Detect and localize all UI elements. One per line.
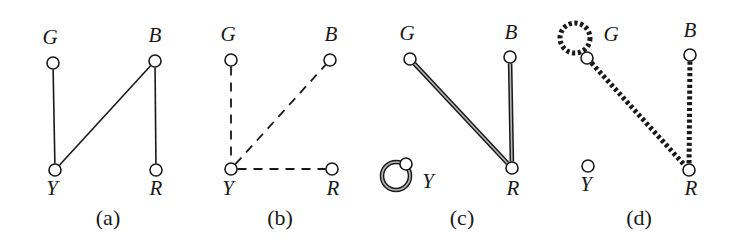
node-b-R[interactable] <box>326 163 338 175</box>
node-label-b-R: R <box>327 178 340 199</box>
node-label-a-Y: Y <box>46 178 58 199</box>
node-label-b-Y: Y <box>222 178 234 199</box>
edge-a-Y-B <box>59 66 150 165</box>
node-c-G[interactable] <box>404 53 416 65</box>
edge-a-B-R <box>155 67 156 163</box>
node-label-c-B: B <box>505 22 518 43</box>
graph-figure: GBYR(a)GBYR(b)GBYR(c)GBYR(d) <box>0 0 737 250</box>
node-label-c-R: R <box>507 178 520 199</box>
node-d-B[interactable] <box>684 49 696 61</box>
node-label-b-G: G <box>220 24 235 45</box>
node-d-G[interactable] <box>581 52 593 64</box>
node-label-b-B: B <box>325 24 338 45</box>
node-c-Y[interactable] <box>400 158 412 170</box>
node-label-d-R: R <box>685 178 698 199</box>
edge-b-Y-B <box>235 65 325 164</box>
node-c-R[interactable] <box>506 162 518 174</box>
node-label-c-G: G <box>399 23 414 44</box>
panel-caption-b: (b) <box>267 207 293 229</box>
self-loops-layer <box>382 23 590 190</box>
node-b-G[interactable] <box>225 54 237 66</box>
node-label-a-G: G <box>42 27 57 48</box>
node-a-B[interactable] <box>149 55 161 67</box>
panel-caption-c: (c) <box>450 207 474 229</box>
node-label-d-Y: Y <box>580 174 592 195</box>
node-b-B[interactable] <box>324 54 336 66</box>
node-a-R[interactable] <box>150 164 162 176</box>
panel-caption-d: (d) <box>626 207 652 229</box>
node-c-B[interactable] <box>504 51 516 63</box>
edges-layer <box>53 61 690 169</box>
edge-c-G-R-inner <box>414 64 507 164</box>
self-loop-d-G <box>560 23 590 53</box>
node-d-R[interactable] <box>683 164 695 176</box>
node-label-c-Y: Y <box>422 171 434 192</box>
panel-caption-a: (a) <box>96 207 120 229</box>
node-d-Y[interactable] <box>582 160 594 172</box>
edge-a-G-Y <box>53 69 55 163</box>
node-label-a-R: R <box>150 178 163 199</box>
node-a-Y[interactable] <box>49 164 61 176</box>
node-b-Y[interactable] <box>225 163 237 175</box>
edge-d-G-R <box>591 63 684 165</box>
node-label-d-B: B <box>684 20 697 41</box>
edge-d-B-R <box>689 61 690 163</box>
node-a-G[interactable] <box>47 57 59 69</box>
node-label-a-B: B <box>149 25 162 46</box>
node-label-d-G: G <box>603 24 618 45</box>
